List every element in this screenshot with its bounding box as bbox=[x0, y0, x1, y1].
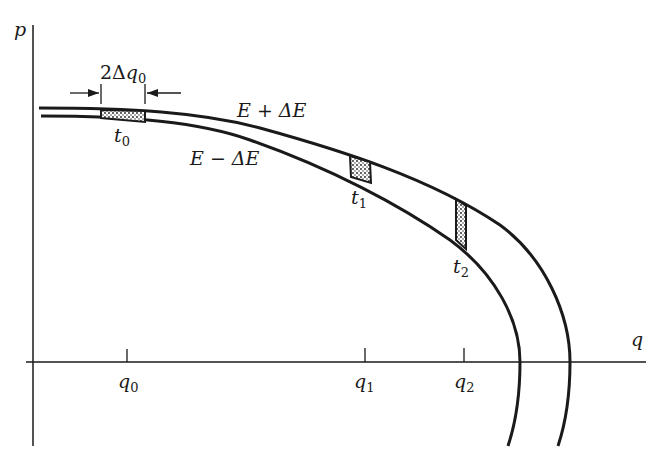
outer-energy-curve bbox=[39, 108, 570, 446]
width-marker-label: 2Δq0 bbox=[100, 63, 146, 85]
outer-curve-label: E + ΔE bbox=[237, 101, 306, 120]
time-label-t0: t0 bbox=[114, 126, 130, 148]
arrow-left-icon bbox=[147, 89, 158, 97]
diagram-graphics bbox=[0, 0, 657, 461]
tick-label-q2: q2 bbox=[454, 372, 474, 394]
q-axis-label: q bbox=[631, 330, 643, 349]
tick-label-q0: q0 bbox=[118, 372, 138, 394]
phase-space-diagram: p q q0 q1 q2 E + ΔE E − ΔE 2Δq0 t0 t1 t2 bbox=[0, 0, 657, 461]
time-label-t2: t2 bbox=[453, 257, 469, 279]
arrow-right-icon bbox=[88, 89, 99, 97]
inner-energy-curve bbox=[41, 116, 520, 446]
tick-label-q1: q1 bbox=[354, 372, 374, 394]
cell-t2 bbox=[456, 199, 466, 249]
inner-curve-label: E − ΔE bbox=[190, 149, 259, 168]
time-label-t1: t1 bbox=[351, 188, 367, 210]
cell-t0 bbox=[101, 110, 145, 122]
p-axis-label: p bbox=[14, 20, 26, 39]
